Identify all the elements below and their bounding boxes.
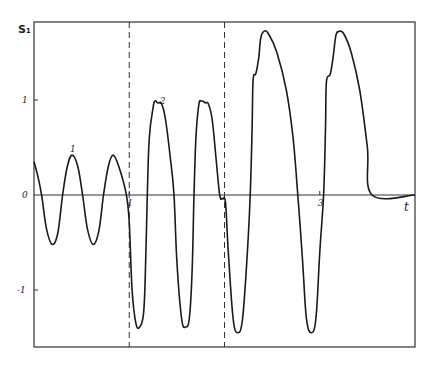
- vertical-dashed-lines: [129, 22, 224, 347]
- x-axis-label: t: [404, 200, 409, 214]
- y-tick-label: 1: [22, 95, 28, 105]
- y-tick-label: 0: [22, 190, 28, 200]
- curve-label: 1: [70, 144, 76, 154]
- curve-label: 2: [159, 96, 166, 106]
- y-axis-label: S₁: [18, 23, 31, 36]
- y-tick-label: -1: [17, 285, 26, 295]
- line-chart: 10-113 12 S₁ t: [0, 0, 436, 368]
